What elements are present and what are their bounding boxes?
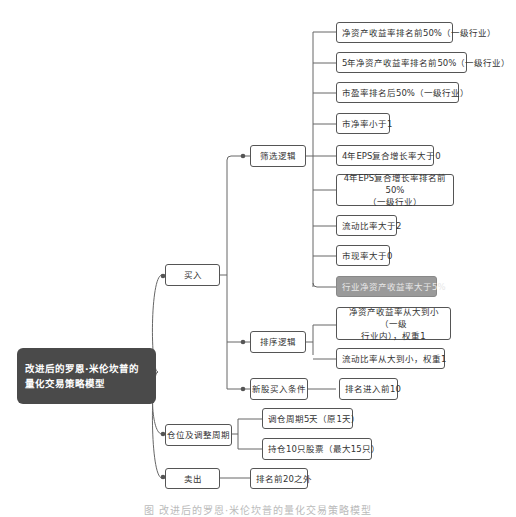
screening-item-label: 市现率大于0	[342, 250, 392, 262]
screening-item[interactable]: 净资产收益率排名前50%（一级行业）	[336, 22, 453, 43]
screening-item[interactable]: 市净率小于1	[336, 113, 390, 134]
screening-item-label: 4年EPS复合增长率排名前50%	[342, 172, 448, 196]
new-stock-node[interactable]: 新股买入条件	[250, 378, 308, 400]
screening-item-label: 4年EPS复合增长率大于0	[342, 150, 441, 162]
sell-item-label: 排名前20之外	[256, 473, 312, 485]
screening-item[interactable]: 流动比率大于2	[336, 215, 397, 236]
screening-item[interactable]: 市现率大于0	[336, 245, 390, 266]
screening-item-label: （一级行业）	[368, 196, 422, 208]
root-label-line1: 改进后的罗恩·米伦坎普的	[25, 361, 139, 376]
screening-item-highlighted[interactable]: 行业净资产收益率大于5%	[336, 276, 437, 297]
root-label-line2: 量化交易策略模型	[25, 376, 105, 391]
ranking-node[interactable]: 排序逻辑	[250, 331, 306, 353]
sell-node[interactable]: 卖出	[165, 468, 220, 489]
new-stock-item[interactable]: 排名进入前10	[339, 378, 398, 400]
position-item-label: 持仓10只股票（最大15只）	[268, 443, 380, 455]
sell-item[interactable]: 排名前20之外	[250, 468, 308, 489]
screening-item-label: 5年净资产收益率排名前50%（一级行业）	[342, 57, 510, 69]
ranking-item[interactable]: 净资产收益率从大到小（一级 行业内），权重1	[336, 307, 451, 340]
screening-item-label: 行业净资产收益率大于5%	[342, 281, 446, 293]
screening-item-label: 净资产收益率排名前50%（一级行业）	[342, 27, 496, 39]
ranking-item-label: 净资产收益率从大到小（一级	[342, 306, 445, 330]
screening-item[interactable]: 市盈率排名后50%（一级行业）	[336, 82, 459, 103]
new-stock-item-label: 排名进入前10	[345, 383, 401, 395]
buy-label: 买入	[184, 269, 202, 281]
screening-item[interactable]: 4年EPS复合增长率大于0	[336, 145, 434, 166]
position-item-label: 调仓周期5天（原1天）	[268, 413, 360, 425]
ranking-item-label: 流动比率从大到小，权重1	[342, 353, 446, 365]
ranking-item-label: 行业内），权重1	[361, 330, 425, 342]
position-node[interactable]: 仓位及调整周期	[165, 424, 232, 446]
sell-label: 卖出	[184, 473, 202, 485]
new-stock-label: 新股买入条件	[252, 383, 306, 395]
ranking-item[interactable]: 流动比率从大到小，权重1	[336, 348, 445, 369]
position-item[interactable]: 持仓10只股票（最大15只）	[262, 438, 372, 460]
screening-item-label: 流动比率大于2	[342, 220, 401, 232]
position-label: 仓位及调整周期	[167, 429, 230, 441]
screening-item[interactable]: 5年净资产收益率排名前50%（一级行业）	[336, 52, 467, 73]
screening-item-label: 市净率小于1	[342, 118, 392, 130]
figure-caption: 图 改进后的罗恩·米伦坎普的量化交易策略模型	[0, 505, 516, 517]
position-item[interactable]: 调仓周期5天（原1天）	[262, 408, 353, 429]
screening-item[interactable]: 4年EPS复合增长率排名前50% （一级行业）	[336, 174, 454, 206]
buy-node[interactable]: 买入	[165, 264, 220, 286]
screening-item-label: 市盈率排名后50%（一级行业）	[342, 87, 469, 99]
ranking-label: 排序逻辑	[260, 336, 296, 348]
screening-node[interactable]: 筛选逻辑	[250, 145, 306, 167]
root-node[interactable]: 改进后的罗恩·米伦坎普的 量化交易策略模型	[17, 348, 156, 404]
screening-label: 筛选逻辑	[260, 150, 296, 162]
